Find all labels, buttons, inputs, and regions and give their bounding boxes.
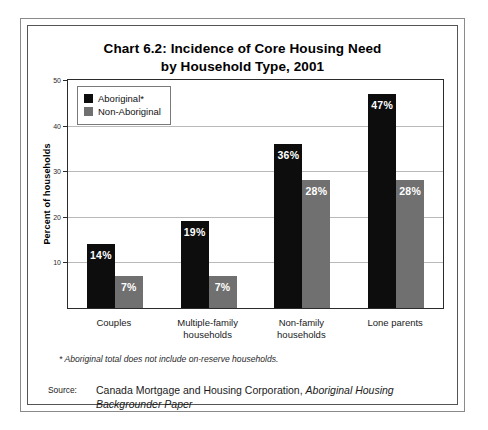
x-axis-category-label: Lone parents <box>335 317 455 329</box>
legend-label-non-aboriginal: Non-Aboriginal <box>98 106 161 117</box>
legend-swatch-icon-non-aboriginal <box>84 107 93 116</box>
y-axis-tick-label: 50 <box>53 77 61 84</box>
chart-title: Chart 6.2: Incidence of Core Housing Nee… <box>28 40 457 76</box>
y-axis-title: Percent of households <box>40 79 54 309</box>
bar-value-label: 36% <box>274 149 302 161</box>
bar-value-label: 28% <box>396 185 424 197</box>
chart-legend: Aboriginal* Non-Aboriginal <box>77 86 171 125</box>
source-text: Canada Mortgage and Housing Corporation,… <box>96 383 443 411</box>
bar-aboriginal[interactable]: 47% <box>368 94 396 308</box>
legend-label-aboriginal: Aboriginal* <box>98 93 144 104</box>
y-axis-title-text: Percent of households <box>42 143 52 244</box>
legend-item-non-aboriginal[interactable]: Non-Aboriginal <box>84 106 161 117</box>
y-axis-tick-label: 20 <box>53 213 61 220</box>
legend-item-aboriginal[interactable]: Aboriginal* <box>84 93 161 104</box>
figure-frame: Chart 6.2: Incidence of Core Housing Nee… <box>20 18 465 412</box>
bar-value-label: 47% <box>368 99 396 111</box>
bar-value-label: 28% <box>302 185 330 197</box>
chart-source: Source: Canada Mortgage and Housing Corp… <box>48 383 443 411</box>
y-axis-tick <box>63 262 68 263</box>
chart-title-line-2: by Household Type, 2001 <box>28 58 457 76</box>
y-axis-tick <box>63 126 68 127</box>
bar-aboriginal[interactable]: 36% <box>274 144 302 308</box>
y-axis-tick <box>63 217 68 218</box>
chart-footnote: * Aboriginal total does not include on-r… <box>59 354 278 364</box>
y-axis-tick-label: 30 <box>53 168 61 175</box>
chart-title-line-1: Chart 6.2: Incidence of Core Housing Nee… <box>104 41 382 56</box>
source-label: Source: <box>48 383 96 395</box>
legend-swatch-icon-aboriginal <box>84 94 93 103</box>
bar-non-aboriginal[interactable]: 7% <box>209 276 237 308</box>
bar-aboriginal[interactable]: 19% <box>181 221 209 308</box>
y-axis-tick <box>63 171 68 172</box>
y-axis-tick <box>63 80 68 81</box>
x-axis-category-label-line: households <box>241 329 361 341</box>
bar-aboriginal[interactable]: 14% <box>87 244 115 308</box>
x-axis-category-label-line: Lone parents <box>335 317 455 329</box>
bar-non-aboriginal[interactable]: 28% <box>396 180 424 308</box>
source-organization: Canada Mortgage and Housing Corporation, <box>96 384 306 396</box>
bar-value-label: 14% <box>87 249 115 261</box>
bar-value-label: 7% <box>209 281 237 293</box>
y-axis-tick-label: 40 <box>53 122 61 129</box>
y-axis-tick-label: 10 <box>53 259 61 266</box>
bar-value-label: 7% <box>115 281 143 293</box>
bar-non-aboriginal[interactable]: 7% <box>115 276 143 308</box>
figure-inner-border: Chart 6.2: Incidence of Core Housing Nee… <box>27 25 458 405</box>
bar-non-aboriginal[interactable]: 28% <box>302 180 330 308</box>
bar-value-label: 19% <box>181 226 209 238</box>
